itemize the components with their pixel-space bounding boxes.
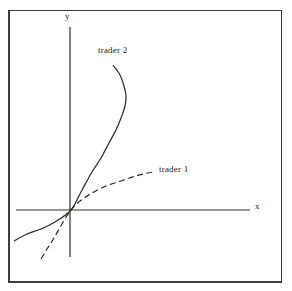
plot-canvas [0, 0, 292, 291]
trader-1-label: trader 1 [159, 165, 188, 174]
trader-1-curve [41, 172, 154, 259]
y-axis-label: y [65, 12, 70, 21]
trader-2-label: trader 2 [98, 46, 127, 55]
scanned-figure-page: y x trader 2 trader 1 [0, 0, 292, 291]
x-axis-label: x [255, 202, 260, 211]
